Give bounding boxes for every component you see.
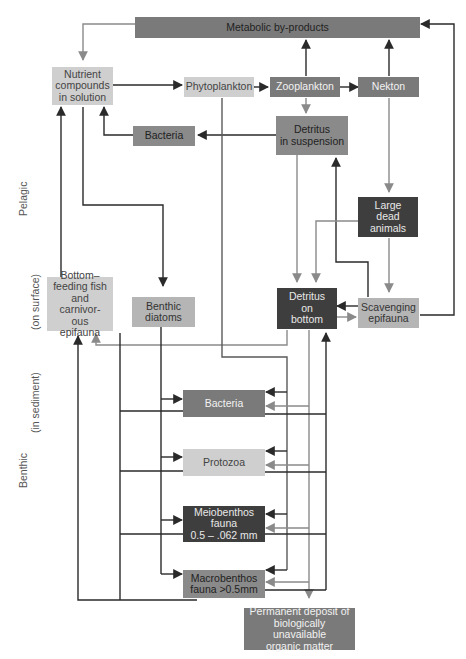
node-bacteria-benthic: Bacteria — [183, 390, 265, 417]
node-nekton: Nekton — [358, 77, 419, 97]
node-phytoplankton: Phytoplankton — [184, 77, 254, 97]
node-permanent-deposit: Permanent deposit of biologically unavai… — [244, 608, 355, 650]
node-macrobenthos: Macrobenthos fauna >0.5mm — [183, 570, 265, 598]
benthic-label: Benthic — [17, 453, 29, 488]
node-metabolic-by-products: Metabolic by-products — [135, 17, 420, 38]
node-detritus-bottom: Detritus on bottom — [277, 288, 337, 329]
node-zooplankton: Zooplankton — [270, 77, 340, 97]
node-nutrient-compounds: Nutrient compounds in solution — [52, 67, 113, 105]
in-sediment-label: (in sediment) — [29, 372, 41, 433]
on-surface-label: (on surface) — [29, 274, 41, 330]
node-large-dead-animals: Large dead animals — [358, 197, 418, 237]
node-bacteria-pelagic: Bacteria — [133, 126, 195, 146]
node-bottom-feeding-fish: Bottom– feeding fish and carnivor- ous e… — [47, 277, 113, 331]
node-scavenging-epifauna: Scavenging epifauna — [358, 298, 419, 328]
node-protozoa: Protozoa — [183, 449, 265, 476]
node-detritus-suspension: Detritus in suspension — [276, 116, 348, 155]
node-benthic-diatoms: Benthic diatoms — [132, 297, 195, 327]
node-meiobenthos: Meiobenthos fauna 0.5 – .062 mm — [183, 506, 265, 542]
pelagic-label: Pelagic — [17, 182, 29, 216]
